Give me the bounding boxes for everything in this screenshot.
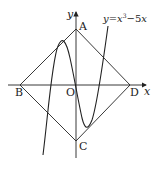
- diagram-canvas: y x O A B C D y=x3−5x: [0, 0, 160, 173]
- cubic-curve: [43, 26, 108, 155]
- point-c-label: C: [79, 140, 87, 153]
- point-b-label: B: [15, 86, 23, 99]
- origin-label: O: [66, 86, 75, 99]
- point-d-label: D: [130, 86, 139, 99]
- point-a-label: A: [78, 20, 88, 33]
- x-axis-label: x: [144, 85, 151, 98]
- y-axis-label: y: [66, 8, 74, 21]
- function-label: y=x3−5x: [102, 12, 147, 24]
